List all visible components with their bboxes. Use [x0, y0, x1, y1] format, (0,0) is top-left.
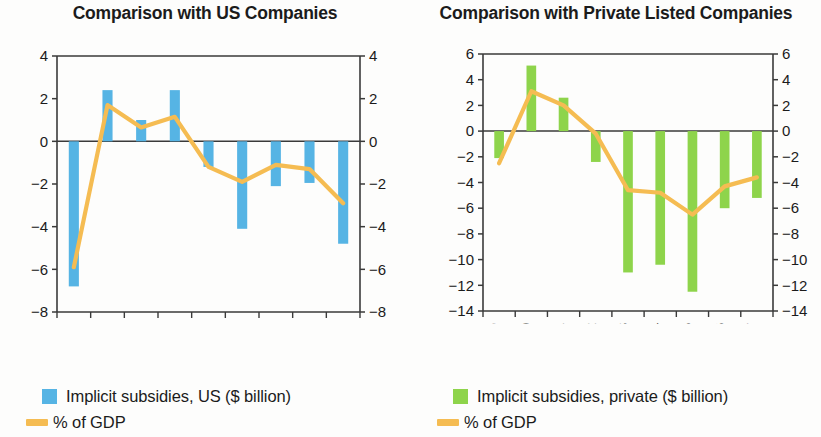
svg-text:2016: 2016 — [711, 323, 728, 324]
svg-text:−8: −8 — [457, 225, 474, 242]
svg-text:2011: 2011 — [550, 323, 567, 324]
legend-swatch-bar-icon — [453, 389, 468, 404]
svg-text:0: 0 — [782, 122, 790, 139]
svg-text:6: 6 — [466, 45, 474, 62]
legend-item-line-us: % of GDP — [0, 409, 410, 435]
legend-item-line-private: % of GDP — [411, 409, 821, 435]
svg-text:−6: −6 — [782, 199, 799, 216]
svg-text:6: 6 — [782, 45, 790, 62]
svg-text:−4: −4 — [457, 174, 474, 191]
legend-label-line-us: % of GDP — [53, 413, 126, 432]
chart-page: Comparison with US Companies 442200−2−2−… — [0, 0, 821, 437]
legend-item-bar-us: Implicit subsidies, US ($ billion) — [0, 383, 410, 409]
chart-svg-private: 66442200−2−2−4−4−6−6−8−8−10−10−12−12−14−… — [411, 34, 821, 324]
panel-us-companies: Comparison with US Companies 442200−2−2−… — [0, 0, 410, 437]
legend-label-line-private: % of GDP — [464, 413, 537, 432]
svg-text:0: 0 — [40, 133, 48, 150]
svg-text:−10: −10 — [782, 251, 807, 268]
panel-title-us: Comparison with US Companies — [0, 3, 410, 24]
svg-text:2010: 2010 — [517, 323, 534, 324]
svg-text:−12: −12 — [782, 277, 807, 294]
svg-text:−8: −8 — [31, 303, 48, 320]
svg-text:−6: −6 — [31, 261, 48, 278]
svg-text:0: 0 — [369, 133, 377, 150]
plot-area-private: 66442200−2−2−4−4−6−6−8−8−10−10−12−12−14−… — [411, 34, 821, 324]
svg-text:−4: −4 — [369, 218, 386, 235]
svg-text:2017: 2017 — [743, 323, 760, 324]
legend-swatch-line-icon — [437, 419, 459, 426]
svg-text:−8: −8 — [782, 225, 799, 242]
svg-text:−14: −14 — [782, 302, 807, 319]
svg-text:4: 4 — [782, 71, 790, 88]
svg-text:−4: −4 — [782, 174, 799, 191]
panel-title-private: Comparison with Private Listed Companies — [411, 3, 821, 24]
legend-private: Implicit subsidies, private ($ billion) … — [411, 383, 821, 435]
svg-text:−2: −2 — [782, 148, 799, 165]
svg-text:−10: −10 — [449, 251, 474, 268]
legend-us: Implicit subsidies, US ($ billion) % of … — [0, 383, 410, 435]
svg-text:−8: −8 — [369, 303, 386, 320]
svg-text:2014: 2014 — [646, 323, 663, 324]
legend-swatch-bar-icon — [42, 389, 57, 404]
svg-text:0: 0 — [466, 122, 474, 139]
svg-text:−6: −6 — [457, 199, 474, 216]
svg-text:4: 4 — [466, 71, 474, 88]
svg-text:2: 2 — [40, 90, 48, 107]
svg-text:−12: −12 — [449, 277, 474, 294]
svg-text:−4: −4 — [31, 218, 48, 235]
svg-text:2012: 2012 — [582, 323, 599, 324]
svg-text:−14: −14 — [449, 302, 474, 319]
svg-text:−2: −2 — [31, 175, 48, 192]
svg-text:2: 2 — [782, 97, 790, 114]
legend-item-bar-private: Implicit subsidies, private ($ billion) — [411, 383, 821, 409]
chart-svg-us: 442200−2−2−4−4−6−6−8−8200920102011201220… — [0, 34, 410, 324]
svg-text:−2: −2 — [369, 175, 386, 192]
plot-area-us: 442200−2−2−4−4−6−6−8−8200920102011201220… — [0, 34, 410, 324]
legend-swatch-line-icon — [26, 419, 48, 426]
svg-text:2: 2 — [369, 90, 377, 107]
svg-text:2015: 2015 — [678, 323, 695, 324]
svg-text:2009: 2009 — [485, 323, 502, 324]
legend-label-bar-us: Implicit subsidies, US ($ billion) — [66, 387, 291, 406]
svg-text:2: 2 — [466, 97, 474, 114]
svg-text:2013: 2013 — [614, 323, 631, 324]
legend-label-bar-private: Implicit subsidies, private ($ billion) — [477, 387, 728, 406]
svg-text:4: 4 — [40, 47, 48, 64]
panel-private-companies: Comparison with Private Listed Companies… — [411, 0, 821, 437]
svg-text:4: 4 — [369, 47, 377, 64]
svg-text:−2: −2 — [457, 148, 474, 165]
svg-text:−6: −6 — [369, 261, 386, 278]
